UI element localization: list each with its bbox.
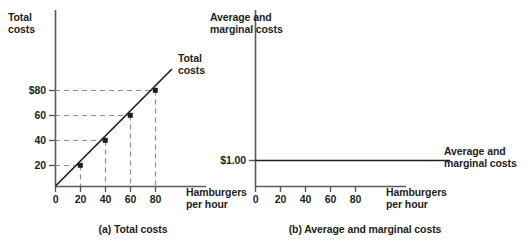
x-tick-label-40-b: 40 [295, 194, 316, 206]
y-tick-label-80-a: $80 [0, 85, 46, 97]
y-tick-label-60-a: 60 [8, 110, 46, 122]
vertical-guide-lines-a [81, 91, 156, 187]
x-axis-title-b: Hamburgers per hour [386, 187, 447, 211]
figure-total-and-unit-costs: Total costs 20 40 60 $80 0 20 40 60 80 H… [0, 0, 532, 248]
x-tick-label-20-a: 20 [70, 194, 91, 206]
curve-label-total-costs: Total costs [178, 53, 205, 77]
y-ticks-a [49, 91, 55, 166]
x-tick-label-60-b: 60 [320, 194, 341, 206]
x-tick-label-80-b: 80 [345, 194, 366, 206]
panel-average-marginal-costs: Average and marginal costs $1.00 0 20 40… [210, 0, 476, 248]
panel-caption-b: (b) Average and marginal costs [232, 224, 498, 236]
x-tick-label-0-a: 0 [45, 194, 66, 206]
y-tick-label-1-00-b: $1.00 [210, 155, 246, 167]
data-point-20 [78, 163, 83, 168]
y-axis-title-a: Total costs [8, 12, 35, 36]
data-point-40 [103, 138, 108, 143]
data-point-60 [128, 113, 133, 118]
total-costs-line [56, 69, 173, 186]
data-point-markers-a [78, 88, 158, 168]
x-tick-label-40-a: 40 [95, 194, 116, 206]
y-axis-title-b: Average and marginal costs [210, 12, 283, 36]
x-tick-label-0-b: 0 [245, 194, 266, 206]
data-point-80 [153, 88, 158, 93]
x-tick-label-60-a: 60 [120, 194, 141, 206]
panel-b-plot [210, 0, 476, 248]
y-tick-label-40-a: 40 [8, 135, 46, 147]
x-tick-label-20-b: 20 [270, 194, 291, 206]
curve-label-average-marginal-costs: Average and marginal costs [444, 146, 517, 170]
y-tick-label-20-a: 20 [8, 160, 46, 172]
x-tick-label-80-a: 80 [145, 194, 166, 206]
